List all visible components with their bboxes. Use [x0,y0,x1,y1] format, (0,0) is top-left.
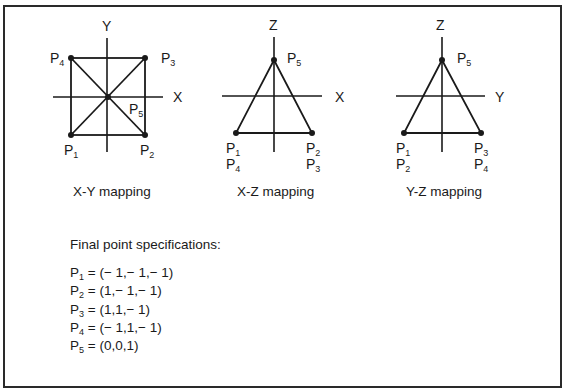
xz-p1-dot [233,130,239,136]
spec-row-p3: P3 = (1,1,− 1) [70,303,221,321]
xy-p5-label: P5 [129,101,143,119]
xy-y-axis-label: Y [102,18,112,34]
yz-p3-dot [478,130,484,136]
xz-x-axis-label: X [335,89,345,105]
xz-p5-dot [271,57,277,63]
yz-mapping-caption: Y-Z mapping [406,184,482,199]
xz-z-axis-label: Z [269,17,278,33]
yz-p5-dot [439,57,445,63]
xy-p3-dot [142,55,148,61]
yz-y-axis-label: Y [495,89,505,105]
xz-p4-label: P4 [226,156,240,174]
spec-row-p5: P5 = (0,0,1) [70,339,221,357]
xy-mapping-caption: X-Y mapping [73,184,151,199]
yz-p1-dot [401,130,407,136]
yz-p4-label: P4 [474,156,488,174]
yz-mapping-diagram [396,37,485,152]
spec-row-p4: P4 = (− 1,1,− 1) [70,321,221,339]
xz-p5-label: P5 [287,50,301,68]
yz-p5-label: P5 [457,50,471,68]
xy-p1-label: P1 [64,142,78,160]
specifications-title: Final point specifications: [70,238,221,252]
xy-p2-label: P2 [140,142,154,160]
yz-p2-label: P2 [396,156,410,174]
xy-p2-dot [142,132,148,138]
xz-p2-dot [309,130,315,136]
spec-row-p1: P1 = (− 1,− 1,− 1) [70,266,221,284]
xy-p1-dot [68,132,74,138]
xy-x-axis-label: X [173,89,183,105]
xz-p3-label: P3 [306,156,320,174]
xy-p5-dot [105,94,111,100]
yz-z-axis-label: Z [436,17,445,33]
point-specifications: Final point specifications: P1 = (− 1,− … [70,238,221,357]
xy-p4-label: P4 [50,50,64,68]
xz-mapping-caption: X-Z mapping [237,184,314,199]
xy-p3-label: P3 [161,50,175,68]
xy-p4-dot [68,55,74,61]
spec-row-p2: P2 = (1,− 1,− 1) [70,284,221,302]
